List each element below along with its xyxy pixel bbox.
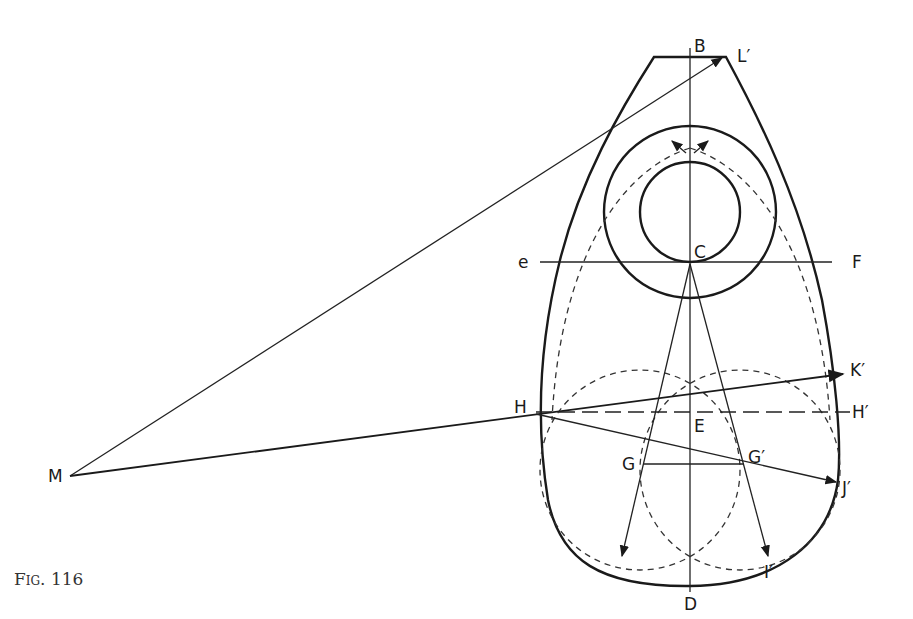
ray-c-right <box>690 264 768 556</box>
label-g: G <box>622 454 635 474</box>
label-k-prime: K′ <box>850 360 865 380</box>
label-l-prime: L′ <box>737 46 750 66</box>
ray-m-to-k <box>70 374 843 476</box>
label-m: M <box>48 466 63 486</box>
label-h-prime: H′ <box>852 402 869 422</box>
label-h: H <box>514 397 527 417</box>
label-i-prime: I′ <box>764 562 773 582</box>
label-e-point: E <box>694 416 705 436</box>
label-f: F <box>852 252 862 272</box>
label-d: D <box>684 594 697 614</box>
ray-h-to-j <box>536 414 836 482</box>
small-arrow-right <box>694 141 708 153</box>
dashed-arc-left-upper <box>552 148 690 420</box>
geometric-construction-diagram: B L′ C e F K′ H H′ E G G′ J′ M D I′ <box>0 0 913 619</box>
ray-c-left <box>622 264 690 556</box>
figure-caption: Fig. 116 <box>14 569 83 589</box>
small-arrow-left <box>672 141 686 153</box>
label-e: e <box>518 252 528 272</box>
label-c: C <box>694 242 706 262</box>
label-b: B <box>694 36 706 56</box>
label-g-prime: G′ <box>748 447 765 467</box>
label-j-prime: J′ <box>841 478 851 498</box>
